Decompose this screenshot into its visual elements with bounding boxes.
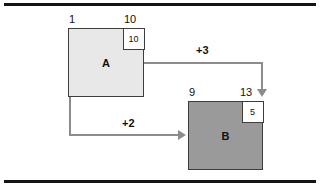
node-a-subbox: 10 <box>123 28 145 50</box>
node-b-subbox: 5 <box>242 101 264 123</box>
node-a-left-index: 1 <box>69 13 75 25</box>
bottom-rule <box>4 180 316 183</box>
edge-plus2-label: +2 <box>122 117 135 129</box>
edge-plus3-horizontal-segment <box>144 62 262 64</box>
edge-plus3-label: +3 <box>196 44 209 56</box>
node-a-label: A <box>69 57 143 69</box>
node-a: A 10 <box>68 28 144 97</box>
edge-plus2-vertical-segment <box>69 96 71 136</box>
edge-plus2-horizontal-segment <box>69 134 179 136</box>
node-a-right-index: 10 <box>124 13 136 25</box>
node-b-right-index: 13 <box>240 86 252 98</box>
node-b-left-index: 9 <box>189 86 195 98</box>
node-b-label: B <box>189 130 262 142</box>
edge-plus2-arrowhead-icon <box>178 130 186 140</box>
node-b: B 5 <box>188 101 263 170</box>
edge-plus3-vertical-segment <box>261 62 263 90</box>
edge-plus3-arrowhead-icon <box>257 89 267 97</box>
top-rule <box>4 3 316 6</box>
diagram-figure: +3 +2 1 10 A 10 9 13 B 5 <box>0 0 320 191</box>
